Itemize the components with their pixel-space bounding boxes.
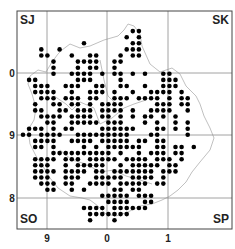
record-dot: [45, 96, 50, 101]
record-dot: [100, 126, 105, 131]
record-dot: [100, 212, 105, 217]
record-dot: [112, 139, 117, 144]
record-dot: [100, 102, 105, 107]
record-dot: [112, 206, 117, 211]
record-dot: [27, 126, 32, 131]
record-dot: [94, 181, 99, 186]
record-dot: [155, 133, 160, 138]
record-dot: [161, 145, 166, 150]
record-dot: [155, 181, 160, 186]
record-dot: [137, 175, 142, 180]
record-dot: [131, 41, 136, 46]
record-dot: [131, 47, 136, 52]
record-dot: [57, 114, 62, 119]
record-dot: [82, 133, 87, 138]
record-dot: [131, 145, 136, 150]
record-dot: [76, 96, 81, 101]
record-dot: [118, 114, 123, 119]
record-dot: [88, 181, 93, 186]
record-dot: [112, 108, 117, 113]
record-dot: [88, 206, 93, 211]
record-dot: [100, 151, 105, 156]
record-dot: [143, 200, 148, 205]
record-dot: [112, 194, 117, 199]
record-dot: [112, 59, 117, 64]
record-dot: [76, 59, 81, 64]
record-dot: [137, 187, 142, 192]
record-dot: [82, 78, 87, 83]
record-dot: [118, 139, 123, 144]
record-dot: [70, 120, 75, 125]
record-dot: [45, 169, 50, 174]
record-dot: [39, 84, 44, 89]
county-boundary: [28, 24, 214, 216]
record-dot: [100, 108, 105, 113]
record-dot: [51, 139, 56, 144]
record-dot: [88, 218, 93, 223]
record-dot: [76, 169, 81, 174]
record-dot: [131, 175, 136, 180]
record-dot: [124, 206, 129, 211]
record-dot: [173, 163, 178, 168]
record-dot: [33, 157, 38, 162]
record-dot: [63, 108, 68, 113]
record-dot: [106, 133, 111, 138]
record-dot: [51, 90, 56, 95]
record-dot: [51, 59, 56, 64]
record-dot: [155, 157, 160, 162]
record-dot: [76, 78, 81, 83]
record-dot: [185, 102, 190, 107]
record-dot: [88, 120, 93, 125]
record-dot: [179, 90, 184, 95]
record-dot: [167, 78, 172, 83]
record-dot: [100, 114, 105, 119]
record-dot: [131, 114, 136, 119]
record-dot: [94, 169, 99, 174]
record-dot: [124, 84, 129, 89]
record-dot: [88, 96, 93, 101]
record-dot: [137, 47, 142, 52]
record-dot: [51, 96, 56, 101]
record-dot: [88, 157, 93, 162]
record-dot: [51, 187, 56, 192]
record-dot: [76, 65, 81, 70]
record-dot: [76, 151, 81, 156]
record-dot: [161, 126, 166, 131]
record-dot: [39, 133, 44, 138]
record-dot: [112, 175, 117, 180]
record-dot: [161, 175, 166, 180]
record-dot: [137, 151, 142, 156]
record-dot: [112, 126, 117, 131]
record-dot: [76, 84, 81, 89]
record-dot: [149, 108, 154, 113]
record-dot: [70, 151, 75, 156]
record-dot: [82, 120, 87, 125]
record-dot: [94, 53, 99, 58]
x-tick-label: 1: [165, 233, 171, 244]
record-dot: [118, 145, 123, 150]
record-dot: [137, 181, 142, 186]
record-dot: [57, 47, 62, 52]
record-dot: [94, 90, 99, 95]
record-dot: [161, 102, 166, 107]
record-dot: [118, 206, 123, 211]
record-dot: [100, 194, 105, 199]
record-dot: [100, 163, 105, 168]
record-dot: [106, 145, 111, 150]
record-dot: [45, 175, 50, 180]
record-dot: [82, 169, 87, 174]
record-dot: [143, 84, 148, 89]
record-dot: [155, 163, 160, 168]
record-dot: [167, 108, 172, 113]
record-dot: [63, 163, 68, 168]
record-dot: [100, 133, 105, 138]
record-dot: [131, 206, 136, 211]
record-dot: [137, 96, 142, 101]
y-tick-label: 0: [9, 68, 15, 79]
record-dot: [161, 169, 166, 174]
record-dot: [94, 145, 99, 150]
record-dot: [131, 90, 136, 95]
record-dot: [118, 84, 123, 89]
record-dot: [106, 212, 111, 217]
corner-label-sk: SK: [212, 13, 229, 27]
